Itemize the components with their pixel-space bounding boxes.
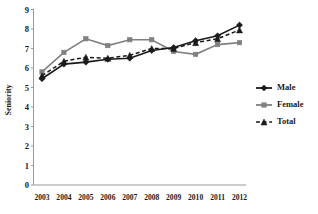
legend-label-female: Female	[277, 99, 304, 109]
y-tick-label: 6	[25, 63, 29, 73]
y-tick-label: 3	[25, 122, 29, 132]
data-point-marker-square	[193, 52, 197, 56]
legend: MaleFemaleTotal	[256, 82, 304, 126]
x-tick-label: 2011	[210, 193, 225, 202]
data-point-marker-square	[106, 43, 110, 47]
x-tick-label: 2007	[122, 193, 137, 202]
legend-label-male: Male	[277, 82, 296, 92]
y-tick-label: 5	[25, 83, 29, 93]
series-male	[39, 22, 243, 82]
y-tick-label: 7	[25, 44, 30, 54]
series-line-female	[42, 39, 240, 72]
data-point-marker-diamond	[149, 47, 155, 53]
x-tick-label: 2012	[232, 193, 247, 202]
data-point-marker-diamond	[127, 55, 133, 61]
data-point-marker-diamond	[261, 85, 267, 91]
chart-container: Seniority 0123456789 2003200420052006200…	[0, 0, 318, 214]
legend-label-total: Total	[277, 116, 296, 126]
x-tick-label: 2008	[144, 193, 159, 202]
y-tick-label: 9	[25, 5, 29, 15]
axis-lines	[34, 9, 247, 186]
y-tick-label: 8	[25, 24, 29, 34]
y-tick-label: 0	[25, 180, 29, 190]
x-tick-label: 2005	[78, 193, 93, 202]
data-point-marker-square	[128, 38, 132, 42]
x-tick-label: 2009	[166, 193, 181, 202]
data-point-marker-square	[262, 103, 266, 107]
x-axis-tick-labels: 2003200420052006200720082009201020112012	[34, 193, 247, 202]
y-tick-label: 2	[25, 141, 29, 151]
x-tick-label: 2004	[56, 193, 71, 202]
data-point-marker-square	[150, 38, 154, 42]
data-series-group	[39, 22, 243, 82]
series-total	[39, 27, 243, 79]
x-tick-label: 2003	[34, 193, 49, 202]
data-point-marker-diamond	[193, 38, 199, 44]
y-axis-title: Seniority	[4, 84, 13, 115]
data-point-marker-square	[215, 42, 219, 46]
data-point-marker-diamond	[236, 22, 242, 28]
line-chart: Seniority 0123456789 2003200420052006200…	[0, 0, 318, 214]
data-point-marker-square	[237, 40, 241, 44]
y-tick-label: 4	[25, 102, 30, 112]
y-axis-tick-labels: 0123456789	[25, 5, 34, 191]
x-tick-label: 2006	[100, 193, 115, 202]
x-tick-label: 2010	[188, 193, 203, 202]
y-axis-title-group: Seniority	[4, 84, 13, 115]
data-point-marker-square	[62, 50, 66, 54]
series-female	[40, 37, 242, 75]
axis-frame	[34, 9, 247, 186]
data-point-marker-square	[84, 37, 88, 41]
series-line-male	[42, 25, 240, 79]
y-tick-label: 1	[25, 161, 29, 171]
